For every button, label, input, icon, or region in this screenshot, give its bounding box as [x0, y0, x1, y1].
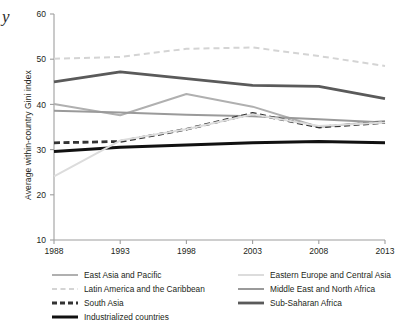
- y-tick-label: 50: [37, 54, 47, 64]
- y-tick-label: 60: [37, 9, 47, 19]
- legend-item[interactable]: Industrialized countries: [52, 310, 227, 324]
- legend-label: East Asia and Pacific: [84, 271, 161, 279]
- x-tick-label: 1988: [45, 246, 64, 256]
- legend-line-swatch: [238, 269, 264, 281]
- legend-column-right: Eastern Europe and Central AsiaMiddle Ea…: [238, 268, 397, 310]
- data-series: [54, 47, 385, 176]
- plot-area: 605040302010198819931998200320082013: [0, 0, 397, 260]
- legend-label: Eastern Europe and Central Asia: [270, 271, 391, 279]
- legend-item[interactable]: Latin America and the Caribbean: [52, 282, 227, 296]
- x-tick-label: 2003: [243, 246, 262, 256]
- legend-label: Industrialized countries: [84, 313, 169, 321]
- legend-item[interactable]: Eastern Europe and Central Asia: [238, 268, 397, 282]
- y-tick-label: 30: [37, 145, 47, 155]
- legend-line-swatch: [52, 269, 78, 281]
- legend-label: South Asia: [84, 299, 124, 307]
- legend-line-swatch: [52, 283, 78, 295]
- gini-index-line-chart: y Average within-country Gini index 6050…: [0, 0, 397, 328]
- y-tick-label: 10: [37, 235, 47, 245]
- x-tick-label: 1998: [177, 246, 196, 256]
- y-tick-label: 20: [37, 190, 47, 200]
- legend-line-swatch: [52, 311, 78, 323]
- legend-line-swatch: [238, 297, 264, 309]
- x-tick-label: 2008: [309, 246, 328, 256]
- legend-column-left: East Asia and PacificLatin America and t…: [52, 268, 227, 324]
- legend-item[interactable]: South Asia: [52, 296, 227, 310]
- legend-label: Sub-Saharan Africa: [270, 299, 342, 307]
- legend-label: Latin America and the Caribbean: [84, 285, 205, 293]
- tick-labels: 605040302010198819931998200320082013: [37, 9, 395, 256]
- series-line: [54, 47, 385, 66]
- legend-item[interactable]: East Asia and Pacific: [52, 268, 227, 282]
- chart-svg: 605040302010198819931998200320082013: [0, 0, 397, 262]
- series-line: [54, 111, 385, 123]
- legend-line-swatch: [52, 297, 78, 309]
- legend-item[interactable]: Middle East and North Africa: [238, 282, 397, 296]
- x-tick-label: 1993: [111, 246, 130, 256]
- legend-label: Middle East and North Africa: [270, 285, 375, 293]
- series-line: [54, 113, 385, 142]
- y-tick-label: 40: [37, 100, 47, 110]
- x-tick-label: 2013: [376, 246, 395, 256]
- series-line: [54, 72, 385, 99]
- legend-item[interactable]: Sub-Saharan Africa: [238, 296, 397, 310]
- legend-line-swatch: [238, 283, 264, 295]
